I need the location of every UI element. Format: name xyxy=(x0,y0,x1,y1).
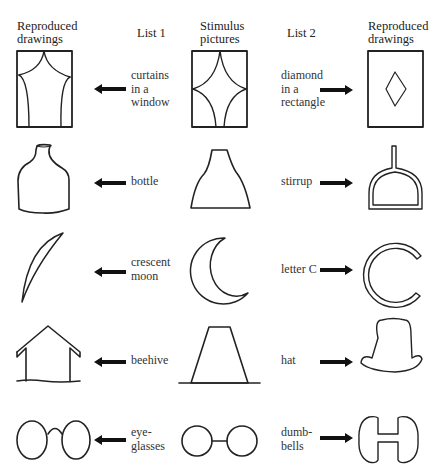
stimulus-trapezoid-shape xyxy=(179,327,260,383)
stimulus-crescent-shape xyxy=(190,238,248,304)
reproduced-eyeglasses-drawing xyxy=(17,421,90,459)
reproduced-dumbbells-drawing xyxy=(359,417,418,463)
reproduced-letter-c-drawing xyxy=(364,243,421,307)
reproduced-bottle-drawing xyxy=(18,145,69,214)
arrow-right-icon xyxy=(320,433,353,443)
reproduced-curtains-drawing xyxy=(17,51,72,127)
arrow-right-icon xyxy=(320,265,353,275)
arrow-left-icon xyxy=(94,357,126,367)
reproduced-stirrup-drawing xyxy=(369,146,422,209)
reproduced-diamond-drawing xyxy=(368,51,423,127)
stimulus-flared-bottle-shape xyxy=(191,150,250,208)
reproduced-crescent-drawing xyxy=(22,233,63,302)
stimulus-curtains-diamond-box xyxy=(192,51,247,127)
stimulus-two-circles-joined xyxy=(182,426,257,456)
arrow-right-icon xyxy=(320,85,353,95)
figure-drawings xyxy=(0,0,436,474)
reproduced-hat-drawing xyxy=(361,319,422,373)
arrow-left-icon xyxy=(94,178,126,188)
arrow-right-icon xyxy=(320,357,353,367)
arrow-right-icon xyxy=(320,178,353,188)
reproduced-beehive-drawing xyxy=(17,326,80,382)
arrow-left-icon xyxy=(94,267,126,277)
arrow-left-icon xyxy=(94,435,126,445)
arrow-left-icon xyxy=(94,84,126,94)
